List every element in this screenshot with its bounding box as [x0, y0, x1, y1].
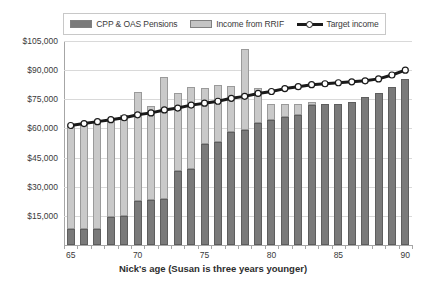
- bar-segment-cpp-oas: [241, 130, 249, 245]
- x-axis-tick-mark: [358, 245, 359, 249]
- bar-group: [93, 41, 101, 245]
- legend-label-cpp-oas: CPP & OAS Pensions: [96, 19, 177, 29]
- bar-group: [294, 41, 302, 245]
- y-axis-tick-label: $75,000: [27, 94, 58, 104]
- bar-group: [267, 41, 275, 245]
- bar-segment-cpp-oas: [214, 142, 222, 245]
- bar-segment-rrif: [174, 93, 182, 171]
- x-axis-tick-mark: [171, 245, 172, 249]
- bar-segment-cpp-oas: [93, 229, 101, 245]
- x-axis-tick-mark: [385, 245, 386, 249]
- bar-segment-cpp-oas: [107, 217, 115, 245]
- bar-segment-cpp-oas: [187, 169, 195, 245]
- gridline: [64, 128, 412, 129]
- x-axis-tick-mark: [131, 245, 132, 249]
- dark-square-swatch-icon: [70, 20, 92, 28]
- gridline: [64, 216, 412, 217]
- bar-segment-cpp-oas: [348, 102, 356, 245]
- x-axis-tick-mark: [345, 245, 346, 249]
- bar-segment-cpp-oas: [267, 120, 275, 245]
- bar-segment-cpp-oas: [281, 117, 289, 245]
- bar-group: [187, 41, 195, 245]
- retirement-income-chart: CPP & OAS Pensions Income from RRIF Targ…: [0, 0, 426, 284]
- x-axis-tick-label: 65: [66, 250, 75, 260]
- legend-label-rrif: Income from RRIF: [216, 19, 284, 29]
- chart-legend: CPP & OAS Pensions Income from RRIF Targ…: [63, 13, 386, 35]
- x-axis-tick-mark: [372, 245, 373, 249]
- light-square-swatch-icon: [190, 20, 212, 28]
- bar-segment-cpp-oas: [388, 87, 396, 245]
- bar-group: [308, 41, 316, 245]
- y-axis-tick-label: $60,000: [27, 123, 58, 133]
- bar-segment-rrif: [187, 87, 195, 170]
- bar-group: [227, 41, 235, 245]
- bar-group: [401, 41, 409, 245]
- x-axis-tick-mark: [332, 245, 333, 249]
- bar-segment-cpp-oas: [361, 97, 369, 245]
- bar-group: [201, 41, 209, 245]
- x-axis-tick-mark: [211, 245, 212, 249]
- bar-segment-rrif: [147, 106, 155, 200]
- bar-group: [214, 41, 222, 245]
- bar-group: [388, 41, 396, 245]
- bar-group: [241, 41, 249, 245]
- x-axis-tick-mark: [91, 245, 92, 249]
- x-axis-tick-mark: [225, 245, 226, 249]
- bar-segment-rrif: [67, 126, 75, 230]
- bar-segment-rrif: [254, 88, 262, 123]
- bar-group: [361, 41, 369, 245]
- x-axis-tick-mark: [64, 245, 65, 249]
- bar-segment-rrif: [227, 86, 235, 133]
- bar-segment-cpp-oas: [375, 93, 383, 246]
- x-axis-tick-mark: [305, 245, 306, 249]
- bar-segment-cpp-oas: [160, 199, 168, 245]
- line-marker-swatch-icon: [297, 20, 323, 28]
- x-axis-title: Nick's age (Susan is three years younger…: [0, 263, 426, 274]
- bar-segment-cpp-oas: [120, 216, 128, 245]
- x-axis-tick-mark: [77, 245, 78, 249]
- bar-segment-rrif: [160, 77, 168, 199]
- bar-group: [174, 41, 182, 245]
- bar-group: [375, 41, 383, 245]
- plot-area: [64, 41, 412, 245]
- bar-segment-cpp-oas: [174, 171, 182, 245]
- y-axis-tick-label: $105,000: [23, 36, 58, 46]
- x-axis-tick-mark: [265, 245, 266, 249]
- bar-segment-rrif: [201, 88, 209, 144]
- bar-segment-rrif: [267, 104, 275, 120]
- bar-group: [321, 41, 329, 245]
- x-axis-tick-label: 85: [334, 250, 343, 260]
- x-axis-tick-mark: [318, 245, 319, 249]
- x-axis-tick-mark: [292, 245, 293, 249]
- x-axis-tick-mark: [412, 245, 413, 249]
- bar-segment-rrif: [294, 104, 302, 115]
- x-axis-tick-label: 70: [133, 250, 142, 260]
- gridline: [64, 158, 412, 159]
- bar-segment-rrif: [281, 104, 289, 117]
- x-axis-tick-label: 90: [401, 250, 410, 260]
- bar-segment-rrif: [80, 124, 88, 230]
- x-axis-tick-mark: [198, 245, 199, 249]
- y-axis-tick-label: $45,000: [27, 153, 58, 163]
- legend-item-rrif: Income from RRIF: [190, 19, 284, 29]
- bar-group: [348, 41, 356, 245]
- y-axis-tick-label: $15,000: [27, 211, 58, 221]
- x-axis-tick-mark: [144, 245, 145, 249]
- bar-segment-cpp-oas: [201, 144, 209, 245]
- y-axis-tick-label: $90,000: [27, 65, 58, 75]
- bar-group: [160, 41, 168, 245]
- bar-segment-rrif: [241, 49, 249, 131]
- bar-group: [147, 41, 155, 245]
- bar-group: [134, 41, 142, 245]
- gridline: [64, 99, 412, 100]
- bar-segment-cpp-oas: [227, 132, 235, 245]
- bar-segment-cpp-oas: [401, 79, 409, 245]
- bar-segment-cpp-oas: [321, 104, 329, 245]
- x-axis-tick-mark: [399, 245, 400, 249]
- legend-item-cpp-oas: CPP & OAS Pensions: [70, 19, 177, 29]
- x-axis-tick-mark: [118, 245, 119, 249]
- bar-segment-rrif: [308, 102, 316, 105]
- gridline: [64, 41, 412, 42]
- bar-segment-cpp-oas: [308, 105, 316, 245]
- x-axis-tick-mark: [158, 245, 159, 249]
